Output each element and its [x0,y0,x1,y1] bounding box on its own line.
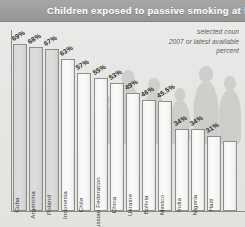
bar-poland[interactable]: Poland [45,49,59,211]
bar-value-label: 49% [123,78,139,91]
bar-value-label: 31% [204,121,220,134]
bar-value-label: 45.5% [156,83,177,99]
chart-title: Children exposed to passive smoking at h… [47,5,245,16]
bar-indonesia[interactable]: Indonesia [61,59,75,211]
bar-value-label: 67% [42,34,58,47]
bar-value-label: 34% [188,114,204,127]
bar-bolivia[interactable]: Bolivia [142,100,156,211]
bar-category-label: Argentina [29,191,36,218]
bar-chile[interactable]: Chile [77,73,91,211]
bar-category-label: India [175,198,182,212]
bar-russian-federation[interactable]: Russian Federation [94,78,108,211]
bar-category-label: Poland [45,195,52,215]
bar-category-label: Cuba [13,197,20,212]
bar-category-label: Chile [77,198,84,213]
chart-screenshot: Children exposed to passive smoking at h… [0,0,245,227]
bar-series: 69%Cuba68%Argentina67%Poland63%Indonesia… [11,30,245,211]
bar-category-label: Bolivia [142,196,149,215]
chart-title-bar: Children exposed to passive smoking at h… [0,0,245,22]
bar-value-label: 53% [107,68,123,81]
bar-category-label: Indonesia [61,191,68,219]
bar-value-label: 57% [75,58,91,71]
bar-mexico[interactable]: Mexico [158,101,172,211]
bar-argentina[interactable]: Argentina [29,47,43,211]
bar-value-label: 69% [10,29,26,42]
bar-value-label: 46% [139,85,155,98]
bar-haiti[interactable]: Haiti [207,136,221,211]
bar-cuba[interactable]: Cuba [13,44,27,211]
bar-category-label: Nigeria [191,195,198,215]
bar-value-label: 68% [26,32,42,45]
bar-category-label: Ukraine [126,194,133,216]
bar-china[interactable]: China [110,83,124,211]
bar-category-label: Haiti [207,199,214,212]
bar-nigeria[interactable]: Nigeria [191,129,205,211]
bar-ukraine[interactable]: Ukraine [126,93,140,211]
bar-category-label: Russian Federation [94,177,101,227]
bar-category-label: Mexico [158,195,165,215]
bar-category-label: China [110,197,117,214]
plot-area: 69%Cuba68%Argentina67%Poland63%Indonesia… [11,30,245,212]
bar-value-label: 55% [91,63,107,76]
bar-truncated-right[interactable] [223,141,237,211]
bar-value-label: 34% [172,114,188,127]
bar-value-label: 63% [58,44,74,57]
bar-india[interactable]: India [175,129,189,211]
